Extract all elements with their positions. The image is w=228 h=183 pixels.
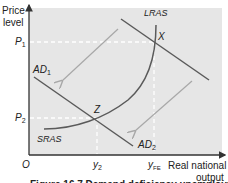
ad-as-diagram: Price level Real national output O P1 P2… [0, 0, 228, 183]
figure-caption: Figure 16.7 Demand deficiency unemployme… [30, 179, 228, 183]
plot-area [29, 8, 222, 155]
y2-label: y2 [92, 159, 102, 171]
yfe-label: yFE [147, 159, 161, 171]
y-axis-label-line2: level [3, 17, 24, 28]
sras-label: SRAS [37, 134, 62, 144]
origin-label: O [22, 159, 30, 170]
p1-label: P1 [15, 36, 26, 48]
point-z-label: Z [93, 104, 101, 115]
y-axis-label-line1: Price [2, 5, 25, 16]
lras-label: LRAS [144, 8, 168, 18]
p2-label: P2 [15, 112, 26, 124]
point-x-label: X [157, 31, 165, 42]
x-axis-label-line1: Real national [168, 160, 226, 171]
